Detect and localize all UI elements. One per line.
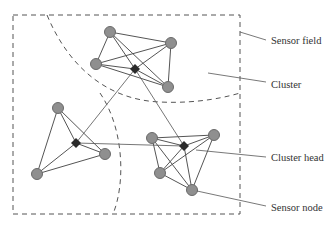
left-cluster-edges: [37, 108, 105, 174]
leader-lines: [196, 32, 266, 206]
sensor-node: [209, 130, 220, 141]
sensor-node: [105, 27, 116, 38]
sensor-nodes: [32, 27, 220, 196]
sensor-node: [166, 38, 177, 49]
sensor-node: [53, 103, 64, 114]
sensor-node: [91, 59, 102, 70]
sensor-network-diagram: Sensor field Cluster Cluster head Sensor…: [0, 0, 333, 229]
sensor-node: [100, 149, 111, 160]
label-sensor-node: Sensor node: [271, 202, 323, 213]
sensor-node: [163, 82, 174, 93]
inter-cluster-links: [76, 69, 184, 146]
label-cluster: Cluster: [271, 79, 302, 90]
sensor-node: [147, 133, 158, 144]
sensor-node: [187, 185, 198, 196]
sensor-node: [155, 168, 166, 179]
top-cluster-edges: [96, 32, 171, 87]
sensor-node: [32, 169, 43, 180]
label-cluster-head: Cluster head: [271, 152, 325, 163]
cluster-head-icon: [130, 64, 140, 74]
sensor-field-boundary: [13, 15, 240, 214]
label-sensor-field: Sensor field: [271, 35, 322, 46]
cluster-head-icon: [71, 138, 81, 148]
cluster-boundary-top: [47, 15, 240, 102]
